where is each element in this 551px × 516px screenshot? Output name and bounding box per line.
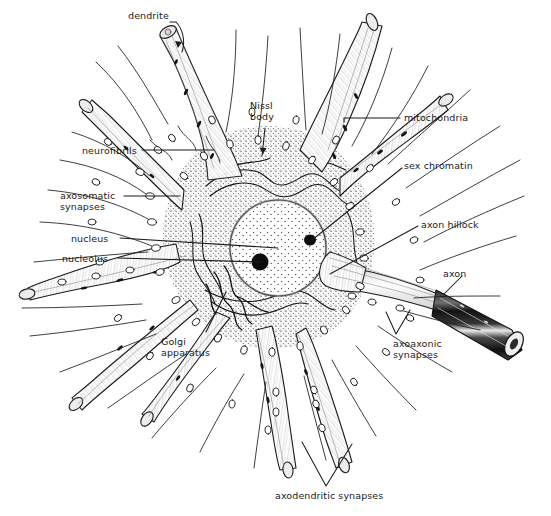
label-nucleus: nucleus [71, 233, 108, 244]
label-axosomatic-synapses: axosomatic synapses [60, 190, 115, 212]
label-axoaxonic-synapses: axoaxonic synapses [393, 338, 442, 360]
leader-mitochondria [344, 118, 400, 122]
label-sex-chromatin: sex chromatin [404, 160, 473, 171]
myelin-sheath [432, 290, 527, 360]
sex-chromatin-body [304, 234, 316, 245]
label-axon-hillock: axon hillock [421, 219, 479, 230]
label-axon: axon [443, 268, 466, 279]
neuron-diagram: dendrite Nissl body mitochondria neurofi… [0, 0, 551, 516]
leader-axoaxonic [386, 310, 410, 334]
label-dendrite: dendrite [128, 10, 169, 21]
label-mitochondria: mitochondria [404, 112, 468, 123]
label-neurofibrils: neurofibrils [82, 145, 137, 156]
label-axodendritic-synapses: axodendritic synapses [275, 490, 383, 501]
label-golgi-apparatus: Golgi apparatus [161, 336, 210, 358]
label-nucleolus: nucleolus [62, 253, 108, 264]
label-nissl-body: Nissl body [250, 100, 274, 122]
